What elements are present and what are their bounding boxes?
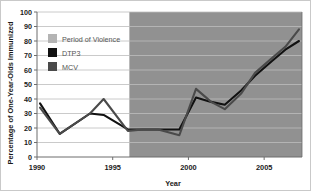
y-tick-label: 40 — [24, 95, 32, 104]
x-axis-ticks: 1990199520002005 — [29, 157, 273, 172]
chart-figure: 0102030405060708090100 1990199520002005 … — [0, 0, 311, 191]
legend-label: MCV — [62, 63, 78, 72]
legend-label: DTP3 — [62, 49, 80, 58]
y-tick-label: 0 — [28, 153, 32, 162]
y-tick-label: 20 — [24, 124, 32, 133]
y-axis-ticks: 0102030405060708090100 — [20, 8, 37, 162]
legend-swatch — [48, 34, 57, 43]
legend-swatch — [48, 62, 57, 71]
y-tick-label: 70 — [24, 51, 32, 60]
y-tick-label: 90 — [24, 22, 32, 31]
x-tick-label: 1995 — [104, 163, 120, 172]
x-tick-label: 2005 — [256, 163, 272, 172]
x-tick-label: 1990 — [29, 163, 45, 172]
y-tick-label: 30 — [24, 109, 32, 118]
y-tick-label: 10 — [24, 138, 32, 147]
line-chart: 0102030405060708090100 1990199520002005 … — [1, 1, 311, 191]
legend-label: Period of Violence — [62, 35, 120, 44]
legend-swatch — [48, 48, 57, 57]
x-axis-title: Year — [165, 179, 181, 188]
y-axis-title: Percentage of One-Year-Olds Immunized — [6, 21, 15, 164]
y-tick-label: 100 — [20, 8, 32, 17]
x-tick-label: 2000 — [180, 163, 196, 172]
y-tick-label: 60 — [24, 66, 32, 75]
y-tick-label: 80 — [24, 37, 32, 46]
y-tick-label: 50 — [24, 80, 32, 89]
